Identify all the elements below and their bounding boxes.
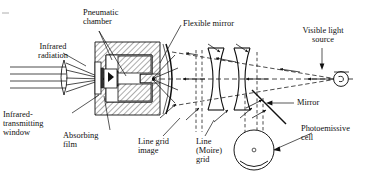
infrared-lens: [61, 60, 67, 95]
mirror-incident-rays: [246, 100, 266, 118]
label-line-moire-grid: Line (Moire) grid: [196, 137, 236, 165]
visible-light-source-lamp: [334, 72, 349, 87]
label-flexible-mirror: Flexible mirror: [183, 19, 263, 28]
label-line-grid-image: Line grid image: [138, 137, 190, 155]
envelope-arrows: [186, 53, 300, 72]
label-photoemissive-cell: Photoemissive cell: [301, 124, 381, 142]
photoemissive-cell-anode: [252, 148, 256, 152]
lower-ray-fan: [160, 104, 252, 122]
upper-ray-fan: [208, 44, 248, 52]
figure-canvas: Infrared radiation Infrared- transmittin…: [0, 0, 383, 176]
infrared-ray-bundle: [10, 67, 66, 88]
leader-line-grid-image: [163, 118, 180, 136]
label-mirror: Mirror: [297, 98, 337, 107]
infrared-transmitting-window: [95, 62, 101, 94]
label-visible-light-source: Visible light source: [292, 26, 354, 44]
chamber-inner-block-lower: [118, 84, 151, 101]
label-absorbing-film: Absorbing film: [63, 131, 125, 149]
label-infrared-radiation: Infrared radiation: [22, 42, 84, 60]
absorbing-film: [101, 68, 104, 88]
label-pneumatic-chamber: Pneumatic chamber: [83, 8, 149, 26]
leader-line-moire-grid: [205, 120, 214, 136]
line-grid-image-plane: [196, 50, 202, 132]
